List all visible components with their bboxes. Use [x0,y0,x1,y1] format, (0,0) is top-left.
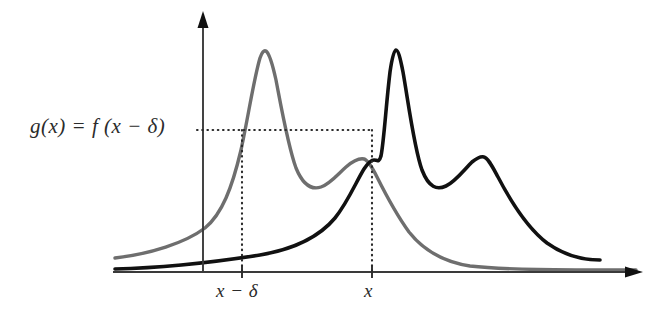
shifted-function-figure: g(x) = f (x − δ) x − δ x [0,0,658,312]
plot-canvas [0,0,658,312]
equation-label: g(x) = f (x − δ) [30,116,165,137]
x-axis-tick-label-x-minus-delta: x − δ [216,281,258,300]
y-axis-arrow-icon [198,11,209,28]
x-axis-tick-label-x: x [364,281,372,300]
x-axis-arrow-icon [625,267,643,278]
